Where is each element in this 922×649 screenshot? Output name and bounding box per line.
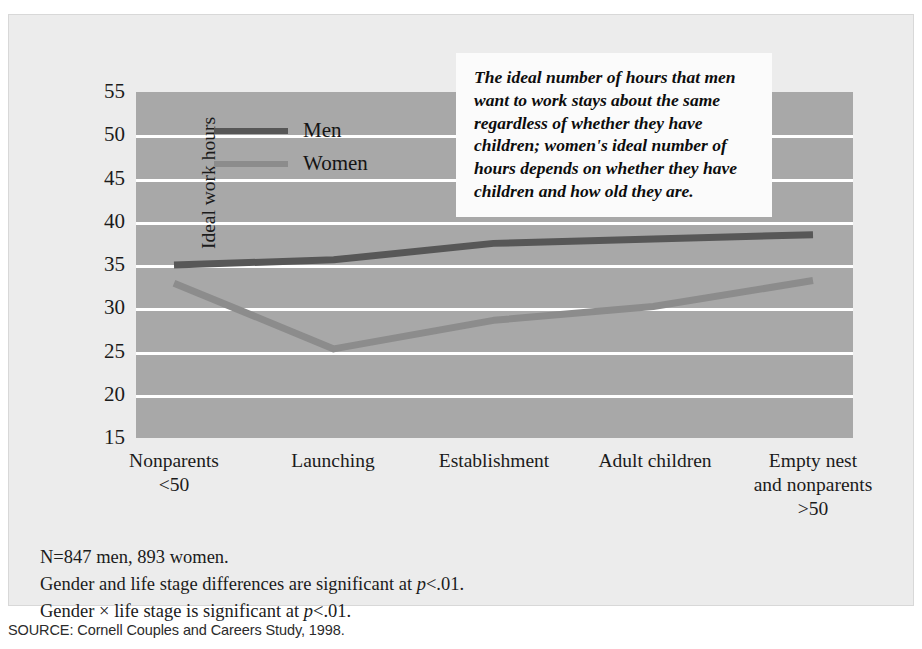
x-tick-empty-nest: Empty nest and nonparents >50 [754, 449, 873, 520]
x-tick-line1: Launching [291, 449, 374, 473]
legend-item-women: Women [214, 147, 368, 180]
legend-swatch-women [214, 161, 288, 167]
footnote-3-p-italic: p [304, 601, 313, 621]
callout-box: The ideal number of hours that men want … [456, 53, 772, 217]
legend-swatch-men [214, 128, 288, 134]
footnote-2-text-a: Gender and life stage differences are si… [40, 574, 417, 594]
y-tick-25: 25 [104, 339, 125, 364]
y-tick-30: 30 [104, 295, 125, 320]
x-tick-line3: >50 [754, 497, 873, 521]
y-tick-40: 40 [104, 209, 125, 234]
x-tick-establishment: Establishment [439, 449, 550, 473]
y-tick-20: 20 [104, 382, 125, 407]
y-tick-50: 50 [104, 122, 125, 147]
source-note: SOURCE: Cornell Couples and Careers Stud… [8, 622, 345, 638]
footnotes: N=847 men, 893 women. Gender and life st… [40, 544, 464, 625]
y-tick-35: 35 [104, 252, 125, 277]
x-tick-line2: <50 [129, 473, 219, 497]
footnote-2-text-b: <.01. [426, 574, 464, 594]
x-tick-line1: Nonparents [129, 449, 219, 473]
figure-panel: 55 50 45 40 35 30 25 20 15 Ideal work ho… [8, 14, 914, 606]
legend: Men Women [214, 114, 368, 180]
y-tick-15: 15 [104, 425, 125, 450]
y-tick-45: 45 [104, 166, 125, 191]
y-axis-title: Ideal work hours [198, 68, 220, 298]
legend-label-women: Women [303, 151, 368, 176]
footnote-2-p-italic: p [417, 574, 426, 594]
line-women [174, 281, 813, 349]
footnote-line-2: Gender and life stage differences are si… [40, 571, 464, 598]
footnote-3-text-b: <.01. [313, 601, 351, 621]
y-tick-55: 55 [104, 79, 125, 104]
x-tick-line1: Establishment [439, 449, 550, 473]
legend-item-men: Men [214, 114, 368, 147]
x-tick-line2: and nonparents [754, 473, 873, 497]
footnote-3-text-a: Gender × life stage is significant at [40, 601, 304, 621]
x-tick-adult-children: Adult children [598, 449, 711, 473]
x-tick-line1: Empty nest [754, 449, 873, 473]
footnote-line-1: N=847 men, 893 women. [40, 544, 464, 571]
x-tick-nonparents: Nonparents <50 [129, 449, 219, 497]
footnote-line-3: Gender × life stage is significant at p<… [40, 598, 464, 625]
legend-label-men: Men [303, 118, 342, 143]
callout-text: The ideal number of hours that men want … [474, 67, 737, 201]
x-tick-launching: Launching [291, 449, 374, 473]
x-tick-line1: Adult children [598, 449, 711, 473]
line-men [174, 235, 813, 265]
